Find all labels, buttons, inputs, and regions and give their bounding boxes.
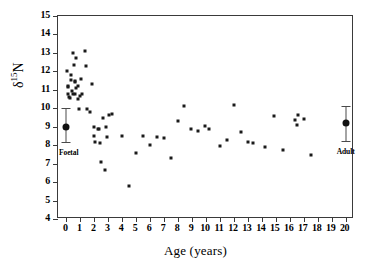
y-axis-tick-label: 9 (28, 121, 50, 131)
x-axis-tick-label: 20 (335, 223, 355, 233)
y-axis-tick (53, 219, 58, 220)
y-axis-tick-label: 4 (28, 213, 50, 223)
y-axis-tick-label: 5 (28, 195, 50, 205)
scatter-plot-figure: δ15N FoetalAdult 456789101112131415 0123… (0, 0, 391, 271)
y-axis-tick-label: 10 (28, 102, 50, 112)
y-axis-tick-label: 8 (28, 139, 50, 149)
error-bar-cap-upper (341, 106, 350, 107)
y-axis-tick-label: 6 (28, 176, 50, 186)
y-axis-tick-label: 11 (28, 84, 50, 94)
y-axis-title: δ15N (11, 62, 27, 88)
y-axis-tick-label: 7 (28, 158, 50, 168)
x-axis-title: Age (years) (0, 243, 391, 259)
summary-markers-layer: FoetalAdult (58, 16, 352, 217)
y-axis-title-delta: δ (11, 81, 26, 88)
y-axis-tick-label: 15 (28, 10, 50, 20)
error-bar-cap-lower (341, 141, 350, 142)
y-axis-title-element: N (11, 62, 26, 72)
error-bar-cap-lower (62, 142, 71, 143)
summary-marker-label: Foetal (59, 148, 78, 157)
y-axis-tick-label: 14 (28, 28, 50, 38)
summary-mean-dot (63, 123, 70, 130)
y-axis-tick-label: 12 (28, 65, 50, 75)
summary-marker-label: Adult (337, 147, 355, 156)
summary-mean-dot (342, 120, 349, 127)
plot-area: FoetalAdult (57, 15, 353, 218)
error-bar-cap-upper (62, 108, 71, 109)
y-axis-title-superscript: 15 (9, 72, 19, 81)
y-axis-tick-label: 13 (28, 47, 50, 57)
